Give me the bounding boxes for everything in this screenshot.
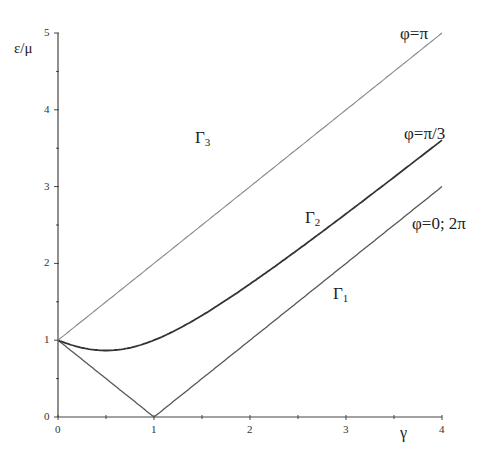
curve-Γ2 [58,140,442,350]
x-axis-label: γ [400,424,407,442]
y-tick-label: 2 [44,256,50,268]
y-axis-label: ε/μ [14,40,33,57]
phi-pi3-label: φ=π/3 [404,124,445,144]
gamma3-label: Γ3 [195,128,210,148]
y-tick-label: 5 [44,26,50,38]
y-tick-label: 4 [44,103,50,115]
x-tick-label: 0 [55,423,61,435]
x-tick-label: 4 [439,423,445,435]
gamma1-label: Γ1 [333,284,348,304]
y-tick-label: 1 [44,333,50,345]
x-tick-label: 3 [343,423,349,435]
curve-Γ3 [58,33,442,340]
phi-pi-label: φ=π [400,24,428,44]
x-tick-label: 1 [151,423,157,435]
y-tick-label: 0 [44,410,50,422]
curve-Γ1 [58,187,442,417]
x-tick-label: 2 [247,423,253,435]
y-tick-label: 3 [44,180,50,192]
gamma2-label: Γ2 [305,208,320,228]
phi-0-label: φ=0; 2π [412,214,466,234]
